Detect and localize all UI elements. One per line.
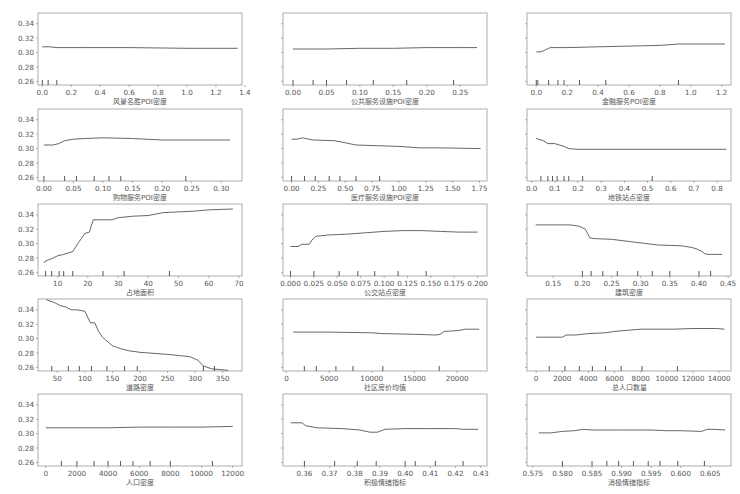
x-tick-label: 350: [216, 374, 230, 383]
y-tick-label: 0.26: [18, 458, 34, 467]
x-tick-label: 10: [53, 279, 63, 288]
plot-frame: [527, 204, 731, 276]
x-tick-label: 0.585: [582, 469, 603, 478]
x-tick-label: 0.175: [444, 279, 465, 288]
y-tick-label: 0.30: [18, 239, 34, 248]
pdp-line: [293, 329, 479, 335]
x-tick-label: 250: [161, 374, 175, 383]
x-tick-label: 1.00: [391, 184, 407, 193]
x-tick-label: 0.6: [665, 184, 677, 193]
y-tick-label: 0.32: [18, 320, 34, 329]
x-axis-label: 公交站点密度: [364, 288, 406, 297]
pdp-line: [44, 138, 230, 145]
x-tick-label: 0.75: [364, 184, 380, 193]
x-tick-label: 10000: [190, 469, 213, 478]
x-tick-label: 0.25: [604, 279, 620, 288]
x-tick-label: 60: [204, 279, 214, 288]
x-tick-label: 0.00: [284, 184, 300, 193]
plot-frame: [283, 109, 487, 181]
pdp-line: [536, 329, 724, 338]
y-tick-label: 0.32: [18, 415, 34, 424]
pdp-line: [291, 423, 479, 432]
x-tick-label: 14000: [708, 374, 731, 383]
x-tick-label: 0.7: [688, 184, 699, 193]
plot-frame: [38, 204, 242, 276]
pdp-line: [46, 426, 233, 427]
plot-frame: [527, 109, 731, 181]
x-axis-label: 道路密度: [126, 383, 154, 392]
x-tick-label: 30: [114, 279, 124, 288]
x-tick-label: 0.025: [304, 279, 325, 288]
x-tick-label: 0.1: [549, 184, 560, 193]
pdp-line: [291, 231, 478, 247]
x-tick-label: 0.30: [633, 279, 649, 288]
x-tick-label: 0.6: [623, 88, 635, 97]
x-tick-label: 0.45: [720, 279, 736, 288]
x-tick-label: 0.4: [94, 88, 106, 97]
x-tick-label: 0.200: [467, 279, 488, 288]
x-tick-label: 0.20: [419, 88, 435, 97]
x-tick-label: 6000: [130, 469, 149, 478]
x-tick-label: 2000: [68, 469, 87, 478]
x-tick-label: 0.40: [691, 279, 707, 288]
x-axis-label: 建筑密度: [615, 288, 643, 297]
x-tick-label: 0: [534, 374, 539, 383]
x-tick-label: 10000: [360, 374, 383, 383]
plot-frame: [38, 394, 242, 466]
x-tick-label: 4000: [579, 374, 598, 383]
y-tick-label: 0.28: [18, 444, 34, 453]
pdp-subplot: 0.260.280.300.320.3450100150200250300350…: [18, 299, 242, 392]
x-tick-label: 0.8: [152, 88, 164, 97]
y-tick-label: 0.34: [18, 115, 34, 124]
x-tick-label: 100: [78, 374, 92, 383]
x-tick-label: 8000: [161, 469, 180, 478]
y-tick-label: 0.26: [18, 268, 34, 277]
plot-frame: [283, 204, 487, 276]
x-tick-label: 0.8: [711, 184, 723, 193]
x-tick-label: 0.605: [700, 469, 721, 478]
x-tick-label: 20000: [446, 374, 469, 383]
y-tick-label: 0.28: [18, 63, 34, 72]
x-tick-label: 0.20: [154, 184, 170, 193]
pdp-line: [536, 139, 726, 150]
y-tick-label: 0.26: [18, 77, 34, 86]
pdp-subplot: 05000100001500020000社区房价均值: [281, 299, 487, 392]
x-tick-label: 0.2: [66, 88, 77, 97]
x-tick-label: 0.575: [523, 469, 544, 478]
partial-dependence-grid: 0.260.280.300.320.340.00.20.40.60.81.01.…: [0, 0, 740, 494]
pdp-subplot: 0.000.250.500.751.001.251.501.75医疗服务设施PO…: [281, 109, 487, 202]
x-tick-label: 0.8: [654, 88, 666, 97]
x-tick-label: 12000: [221, 469, 244, 478]
y-tick-label: 0.30: [18, 144, 34, 153]
x-tick-label: 0.39: [372, 469, 388, 478]
x-tick-label: 1.0: [181, 88, 193, 97]
x-tick-label: 0.050: [327, 279, 348, 288]
figure-canvas: 0.260.280.300.320.340.00.20.40.60.81.01.…: [0, 0, 740, 494]
pdp-line: [42, 47, 237, 49]
x-tick-label: 5000: [320, 374, 339, 383]
x-tick-label: 0.05: [65, 184, 81, 193]
plot-frame: [283, 394, 487, 466]
x-tick-label: 0.6: [123, 88, 135, 97]
x-tick-label: 0.37: [322, 469, 338, 478]
plot-frame: [527, 299, 731, 371]
pdp-subplot: 0.260.280.300.320.3402000400060008000100…: [18, 394, 245, 487]
pdp-subplot: 0.00.20.40.60.81.01.2金融服务POI密度: [525, 13, 731, 106]
x-tick-label: 1.75: [471, 184, 487, 193]
x-tick-label: 40: [144, 279, 154, 288]
x-axis-label: 地铁站点密度: [608, 193, 650, 202]
x-tick-label: 6000: [605, 374, 624, 383]
pdp-subplot: 0.5750.5800.5850.5900.5950.6000.605消极情绪指…: [523, 394, 731, 487]
x-tick-label: 4000: [99, 469, 118, 478]
pdp-line: [292, 138, 481, 149]
x-tick-label: 0.41: [422, 469, 438, 478]
x-axis-label: 总人口数量: [612, 383, 647, 392]
x-tick-label: 1.25: [418, 184, 434, 193]
x-tick-label: 0.4: [619, 184, 631, 193]
y-tick-label: 0.34: [18, 305, 34, 314]
x-tick-label: 1.0: [685, 88, 697, 97]
y-tick-label: 0.30: [18, 48, 34, 57]
x-tick-label: 50: [174, 279, 184, 288]
plot-frame: [38, 13, 242, 85]
pdp-subplot: 0.260.280.300.320.340.00.20.40.60.81.01.…: [18, 13, 251, 106]
